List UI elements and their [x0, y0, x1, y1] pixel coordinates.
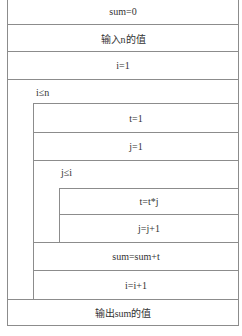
step-init-sum: sum=0	[8, 0, 238, 25]
step-output-sum-text: 输出sum的值	[95, 305, 152, 320]
step-update-i: i=i+1	[34, 271, 238, 299]
step-update-sum: sum=sum+t	[34, 243, 238, 271]
step-init-j-text: j=1	[129, 141, 142, 152]
ns-flowchart: sum=0 输入n的值 i=1 i≤n t=1 j=1 j≤i	[7, 0, 239, 326]
step-update-t-text: t=t*j	[140, 196, 159, 207]
outer-loop-block: i≤n t=1 j=1 j≤i t=t*j	[8, 80, 238, 300]
step-init-t: t=1	[34, 104, 238, 133]
outer-loop-body: t=1 j=1 j≤i t=t*j j=j+1	[33, 103, 238, 299]
step-update-i-text: i=i+1	[125, 280, 147, 291]
inner-loop-condition: j≤i	[61, 167, 72, 178]
inner-loop-body: t=t*j j=j+1	[59, 188, 238, 242]
step-init-i: i=1	[8, 52, 238, 80]
step-input-n-text: 输入n的值	[101, 31, 146, 46]
inner-loop-block: j≤i t=t*j j=j+1	[34, 161, 238, 243]
outer-loop-condition: i≤n	[36, 87, 49, 98]
step-update-sum-text: sum=sum+t	[112, 251, 159, 262]
step-update-j-text: j=j+1	[138, 223, 160, 234]
step-init-j: j=1	[34, 133, 238, 161]
step-output-sum: 输出sum的值	[8, 300, 238, 325]
step-init-sum-text: sum=0	[109, 6, 136, 17]
step-init-i-text: i=1	[116, 60, 129, 71]
step-update-t: t=t*j	[60, 189, 238, 215]
step-init-t-text: t=1	[129, 113, 142, 124]
step-update-j: j=j+1	[60, 215, 238, 242]
step-input-n: 输入n的值	[8, 25, 238, 52]
